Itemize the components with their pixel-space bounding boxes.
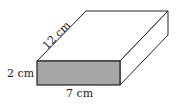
- front-face: [37, 61, 120, 85]
- width-label: 7 cm: [66, 87, 94, 100]
- height-label: 2 cm: [7, 67, 35, 80]
- prism-diagram: 12 cm 2 cm 7 cm: [0, 0, 177, 104]
